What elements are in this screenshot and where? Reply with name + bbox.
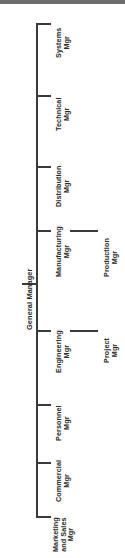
branch-stub-personnel [36, 404, 51, 406]
node-label-line: Mgr [67, 517, 75, 552]
node-technical-mgr[interactable]: Technical Mgr [55, 97, 70, 131]
branch-stub-commercial [36, 462, 51, 464]
node-label-line: Mgr [63, 330, 71, 373]
branch-stub-manufacturing [36, 230, 51, 232]
org-chart-canvas: General Manager Systems Mgr Technical Mg… [0, 0, 125, 558]
node-label-line: Mgr [63, 165, 71, 207]
node-commercial-mgr[interactable]: Commercial Mgr [55, 460, 70, 502]
node-personnel-mgr[interactable]: Personnel Mgr [55, 405, 70, 441]
branch-stub-distribution [36, 166, 51, 168]
node-production-mgr[interactable]: Production Mgr [103, 238, 118, 277]
node-general-manager[interactable]: General Manager [25, 269, 34, 330]
node-label-line: Mgr [63, 460, 71, 502]
branch-stub-systems [36, 23, 51, 25]
node-distribution-mgr[interactable]: Distribution Mgr [55, 165, 70, 207]
node-label-line: Mgr [63, 226, 71, 277]
branch-stub-technical [36, 95, 51, 97]
connector-engineering-project [70, 330, 98, 332]
node-manufacturing-mgr[interactable]: Manufacturing Mgr [55, 226, 70, 277]
branch-stub-marketing-and-sales [36, 516, 51, 518]
node-project-mgr[interactable]: Project Mgr [103, 338, 118, 363]
node-label-line: Mgr [111, 238, 119, 277]
node-marketing-and-sales-mgr[interactable]: Marketing and Sales Mgr [52, 517, 75, 552]
node-engineering-mgr[interactable]: Engineering Mgr [55, 330, 70, 373]
node-label-line: Mgr [63, 97, 71, 131]
node-label-text: General Manager [25, 269, 34, 330]
node-label-line: Mgr [63, 28, 71, 58]
node-systems-mgr[interactable]: Systems Mgr [55, 28, 70, 58]
branch-stub-engineering [36, 330, 51, 332]
connector-manufacturing-production [70, 230, 98, 232]
org-chart-page: General Manager Systems Mgr Technical Mg… [0, 0, 125, 558]
node-label-line: Mgr [63, 405, 71, 441]
root-spine-line [36, 23, 38, 517]
node-label-line: Mgr [111, 338, 119, 363]
